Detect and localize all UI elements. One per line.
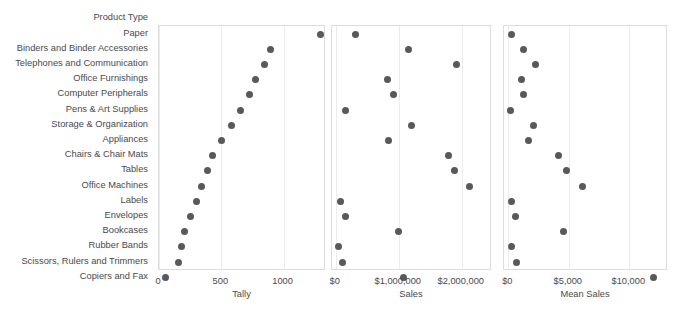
x-tick-label: $2,000,000 [437,276,484,287]
x-axis-title: Mean Sales [560,289,609,300]
data-point[interactable] [453,61,460,68]
x-tick-label: 1000 [272,276,293,287]
data-point[interactable] [555,152,562,159]
category-label: Paper [123,28,148,39]
panel-mean-sales [503,25,667,270]
x-tick-label: $0 [502,276,512,287]
x-tick-label: $0 [330,276,340,287]
data-point[interactable] [335,243,342,250]
data-point[interactable] [518,76,525,83]
category-label: Copiers and Fax [80,271,148,282]
x-tick-label: $10,000 [611,276,645,287]
data-point[interactable] [508,198,515,205]
gridline [284,26,285,269]
category-label: Bookcases [103,225,148,236]
data-point[interactable] [513,259,520,266]
category-label: Labels [121,195,148,206]
gridline [221,26,222,269]
data-point[interactable] [162,274,169,281]
x-tick-label: $5,000 [554,276,582,287]
data-point[interactable] [317,31,324,38]
data-point[interactable] [445,152,452,159]
data-point[interactable] [342,107,349,114]
gridline [629,26,630,269]
x-axis-title: Tally [232,289,251,300]
category-label: Appliances [103,134,148,145]
gridline [569,26,570,269]
data-point[interactable] [395,228,402,235]
data-point[interactable] [405,46,412,53]
gridline [508,26,509,269]
data-point[interactable] [385,137,392,144]
panel-sales [331,25,491,270]
data-point[interactable] [337,198,344,205]
data-point[interactable] [204,167,211,174]
data-point[interactable] [520,46,527,53]
category-label: Binders and Binder Accessories [17,43,148,54]
data-point[interactable] [507,107,514,114]
category-label: Tables [121,164,148,175]
data-point[interactable] [193,198,200,205]
category-label: Office Machines [82,180,149,191]
data-point[interactable] [339,259,346,266]
data-point[interactable] [237,107,244,114]
data-point[interactable] [181,228,188,235]
data-point[interactable] [650,274,657,281]
data-point[interactable] [267,46,274,53]
data-point[interactable] [508,243,515,250]
data-point[interactable] [408,122,415,129]
category-label: Envelopes [105,210,148,221]
x-tick-label: 500 [213,276,229,287]
data-point[interactable] [252,76,259,83]
data-point[interactable] [218,137,225,144]
data-point[interactable] [209,152,216,159]
category-label: Chairs & Chair Mats [65,149,148,160]
row-header-label: Product Type [93,12,148,23]
data-point[interactable] [532,61,539,68]
data-point[interactable] [198,183,205,190]
data-point[interactable] [384,76,391,83]
x-tick-label: $1,000,000 [375,276,422,287]
category-label: Office Furnishings [73,73,148,84]
category-label: Scissors, Rulers and Trimmers [21,256,148,267]
data-point[interactable] [508,31,515,38]
category-label: Rubber Bands [89,240,148,251]
category-label: Pens & Art Supplies [66,104,148,115]
data-point[interactable] [560,228,567,235]
data-point[interactable] [261,61,268,68]
panel-tally [158,25,325,270]
category-label-column: Product Type PaperBinders and Binder Acc… [0,0,152,311]
category-label: Computer Peripherals [58,88,148,99]
gridline [159,26,160,269]
data-point[interactable] [178,243,185,250]
gridline [336,26,337,269]
data-point[interactable] [579,183,586,190]
category-label: Telephones and Communication [15,58,148,69]
data-point[interactable] [246,91,253,98]
data-point[interactable] [451,167,458,174]
data-point[interactable] [512,213,519,220]
data-point[interactable] [175,259,182,266]
x-axis-title: Sales [399,289,422,300]
category-label: Storage & Organization [51,119,148,130]
data-point[interactable] [520,91,527,98]
data-point[interactable] [390,91,397,98]
data-point[interactable] [228,122,235,129]
x-tick-label: 0 [155,276,160,287]
data-point[interactable] [530,122,537,129]
data-point[interactable] [342,213,349,220]
data-point[interactable] [187,213,194,220]
dot-plot-chart: Product Type PaperBinders and Binder Acc… [0,0,680,311]
data-point[interactable] [466,183,473,190]
data-point[interactable] [525,137,532,144]
data-point[interactable] [352,31,359,38]
gridline [462,26,463,269]
